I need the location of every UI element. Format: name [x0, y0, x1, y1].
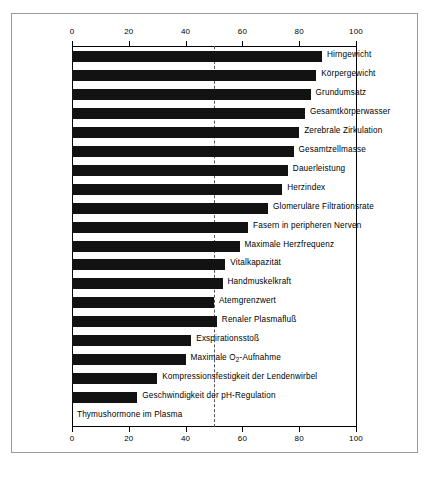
bar-category-label: Renaler Plasmafluß — [222, 315, 297, 324]
bar-row[interactable]: Thymushormone im Plasma — [12, 407, 417, 426]
bar-row[interactable]: Atemgrenzwert — [12, 293, 417, 312]
bar-category-label: Exspirationsstoß — [196, 334, 259, 343]
bar-category-label: Fasern in peripheren Nerven — [253, 221, 361, 230]
bar-row[interactable]: Dauerleistung — [12, 161, 417, 180]
bar-row[interactable]: Herzindex — [12, 180, 417, 199]
bar-category-label: Grundumsatz — [316, 88, 367, 97]
bar-category-label: Maximale O2-Aufnahme — [191, 353, 281, 363]
bar[interactable] — [72, 297, 214, 308]
bar-group: HirngewichtKörpergewichtGrundumsatzGesam… — [12, 14, 417, 452]
bar[interactable] — [72, 89, 311, 100]
bar-category-label: Atemgrenzwert — [219, 296, 276, 305]
bar-category-label: Glomeruläre Filtrationsrate — [273, 202, 374, 211]
bar-row[interactable]: Fasern in peripheren Nerven — [12, 218, 417, 237]
bar-category-label: Maximale Herzfrequenz — [245, 240, 335, 249]
bar-category-label: Herzindex — [287, 183, 325, 192]
bar[interactable] — [72, 392, 137, 403]
bar-category-label: Vitalkapazität — [230, 258, 281, 267]
bar-row[interactable]: Maximale Herzfrequenz — [12, 237, 417, 256]
bar-row[interactable]: Handmuskelkraft — [12, 274, 417, 293]
bar-row[interactable]: Maximale O2-Aufnahme — [12, 350, 417, 369]
bar-category-label: Kompressionsfestigkeit der Lendenwirbel — [162, 372, 317, 381]
bar[interactable] — [72, 165, 288, 176]
bar-category-label: Handmuskelkraft — [228, 277, 292, 286]
chart-figure: 020406080100 020406080100 HirngewichtKör… — [11, 13, 418, 453]
bar-row[interactable]: Gesamtkörperwasser — [12, 104, 417, 123]
bar-category-label: Körpergewicht — [321, 69, 375, 78]
bar-row[interactable]: Geschwindigkeit der pH-Regulation — [12, 388, 417, 407]
bar[interactable] — [72, 146, 294, 157]
bar[interactable] — [72, 259, 225, 270]
bar[interactable] — [72, 108, 305, 119]
bar[interactable] — [72, 184, 282, 195]
bar-row[interactable]: Vitalkapazität — [12, 255, 417, 274]
bar-category-label: Dauerleistung — [293, 164, 345, 173]
bar-category-label: Hirngewicht — [327, 50, 371, 59]
bar-row[interactable]: Exspirationsstoß — [12, 331, 417, 350]
bar-category-label: Gesamtkörperwasser — [310, 107, 391, 116]
bar-row[interactable]: Kompressionsfestigkeit der Lendenwirbel — [12, 369, 417, 388]
bar-category-label: Geschwindigkeit der pH-Regulation — [142, 391, 275, 400]
bar[interactable] — [72, 241, 240, 252]
bar[interactable] — [72, 222, 248, 233]
bar[interactable] — [72, 354, 186, 365]
bar-category-label: Zerebrale Zirkulation — [304, 126, 382, 135]
bar[interactable] — [72, 203, 268, 214]
bar[interactable] — [72, 51, 322, 62]
bar-row[interactable]: Hirngewicht — [12, 47, 417, 66]
bar-row[interactable]: Körpergewicht — [12, 66, 417, 85]
bar-row[interactable]: Renaler Plasmafluß — [12, 312, 417, 331]
bar-row[interactable]: Grundumsatz — [12, 85, 417, 104]
bar-row[interactable]: Gesamtzellmasse — [12, 142, 417, 161]
bar[interactable] — [72, 373, 157, 384]
bar[interactable] — [72, 70, 316, 81]
plot-area: 020406080100 020406080100 HirngewichtKör… — [12, 14, 417, 452]
bar[interactable] — [72, 316, 217, 327]
bar[interactable] — [72, 335, 191, 346]
bar-category-label: Thymushormone im Plasma — [77, 410, 182, 419]
bar[interactable] — [72, 278, 223, 289]
bar-category-label: Gesamtzellmasse — [299, 145, 366, 154]
bar-row[interactable]: Zerebrale Zirkulation — [12, 123, 417, 142]
bar[interactable] — [72, 127, 299, 138]
bar-row[interactable]: Glomeruläre Filtrationsrate — [12, 199, 417, 218]
